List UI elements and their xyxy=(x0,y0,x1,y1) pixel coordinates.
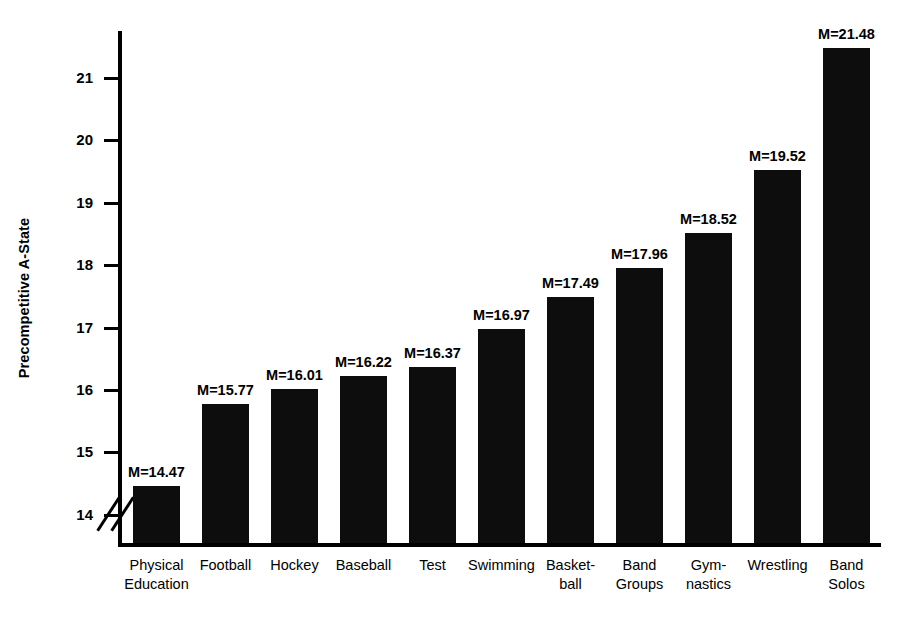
y-axis-tick xyxy=(104,327,119,330)
bar-value-label: M=21.48 xyxy=(818,27,875,42)
x-axis-category-label: Band Solos xyxy=(792,556,902,593)
bar-slot: M=16.97 xyxy=(478,31,525,543)
bar-slot: M=19.52 xyxy=(754,31,801,543)
y-axis-title: Precompetitive A-State xyxy=(16,188,32,408)
bar-value-label: M=14.47 xyxy=(128,465,185,480)
bar[interactable] xyxy=(547,297,594,543)
bar[interactable] xyxy=(271,389,318,543)
y-axis-tick xyxy=(104,389,119,392)
y-axis-tick-label: 19 xyxy=(53,195,93,210)
bar-value-label: M=16.37 xyxy=(404,346,461,361)
bar[interactable] xyxy=(478,329,525,543)
bar-value-label: M=16.97 xyxy=(473,308,530,323)
y-axis-tick-label: 20 xyxy=(53,132,93,147)
bar[interactable] xyxy=(409,367,456,543)
y-axis-tick-label: 21 xyxy=(53,70,93,85)
y-axis-tick-label: 14 xyxy=(53,507,93,522)
bar-slot: M=17.49 xyxy=(547,31,594,543)
bar[interactable] xyxy=(616,268,663,543)
x-axis-line xyxy=(118,543,881,547)
y-axis-tick xyxy=(104,77,119,80)
bar-slot: M=16.37 xyxy=(409,31,456,543)
bar-value-label: M=16.22 xyxy=(335,355,392,370)
bar-value-label: M=17.49 xyxy=(542,276,599,291)
bar-slot: M=21.48 xyxy=(823,31,870,543)
bar-slot: M=18.52 xyxy=(685,31,732,543)
bar[interactable] xyxy=(202,404,249,543)
bar[interactable] xyxy=(133,486,180,543)
bar-value-label: M=18.52 xyxy=(680,212,737,227)
y-axis-tick xyxy=(104,264,119,267)
y-axis-tick-label: 17 xyxy=(53,320,93,335)
y-axis-tick-label: 16 xyxy=(53,382,93,397)
bar[interactable] xyxy=(340,376,387,543)
y-axis-tick-label: 15 xyxy=(53,444,93,459)
bar-value-label: M=19.52 xyxy=(749,149,806,164)
bar-value-label: M=16.01 xyxy=(266,368,323,383)
bar[interactable] xyxy=(823,48,870,543)
bar-slot: M=16.01 xyxy=(271,31,318,543)
bar-chart-figure: Precompetitive A-State 1415161718192021 … xyxy=(0,0,915,621)
y-axis-tick-label: 18 xyxy=(53,257,93,272)
bar-slot: M=14.47 xyxy=(133,31,180,543)
plot-area: M=14.47M=15.77M=16.01M=16.22M=16.37M=16.… xyxy=(122,31,881,543)
bar-slot: M=17.96 xyxy=(616,31,663,543)
bar[interactable] xyxy=(754,170,801,543)
bar-slot: M=16.22 xyxy=(340,31,387,543)
y-axis-tick xyxy=(104,139,119,142)
y-axis-tick xyxy=(104,451,119,454)
y-axis-tick xyxy=(104,202,119,205)
bar-value-label: M=17.96 xyxy=(611,247,668,262)
bar-value-label: M=15.77 xyxy=(197,383,254,398)
bar-slot: M=15.77 xyxy=(202,31,249,543)
bar[interactable] xyxy=(685,233,732,543)
